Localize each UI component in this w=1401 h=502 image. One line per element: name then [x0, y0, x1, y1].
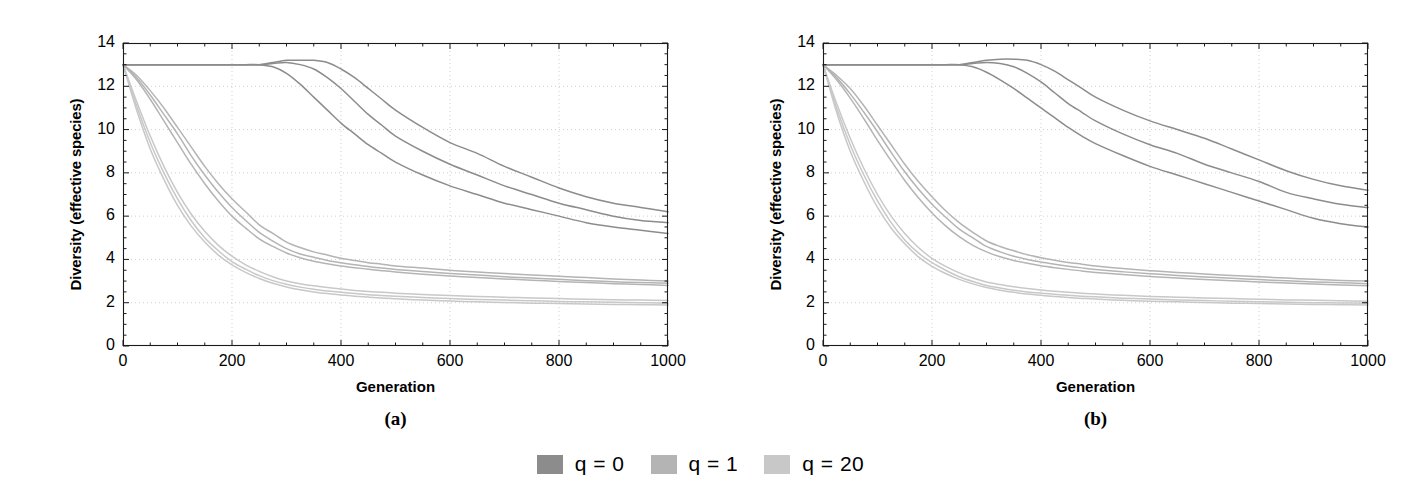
panel-a-ytick-12: 12 [81, 76, 115, 94]
panel-b-ytick-10: 10 [781, 120, 815, 138]
panel-b-xtick-800: 800 [1224, 352, 1294, 370]
panel-a-svg [123, 43, 668, 346]
panel-b-caption: (b) [1036, 408, 1156, 430]
panel-a-plot-area [123, 43, 668, 346]
panel-a-xtick-0: 0 [88, 352, 158, 370]
panel-b-xtick-400: 400 [1006, 352, 1076, 370]
legend-swatch-icon [764, 455, 790, 474]
panel-a-ytick-10: 10 [81, 120, 115, 138]
legend: q = 0q = 1q = 20 [0, 452, 1401, 476]
panel-b-ytick-14: 14 [781, 33, 815, 51]
panel-a-xtick-600: 600 [415, 352, 485, 370]
panel-b-ytick-12: 12 [781, 76, 815, 94]
panel-b-xlabel: Generation [823, 378, 1368, 395]
legend-label: q = 0 [575, 452, 625, 476]
panel-b-xtick-200: 200 [897, 352, 967, 370]
panel-a-ytick-6: 6 [81, 206, 115, 224]
panel-b-ytick-6: 6 [781, 206, 815, 224]
panel-b-svg [823, 43, 1368, 346]
panel-a-caption: (a) [336, 408, 456, 430]
panel-a-ytick-8: 8 [81, 163, 115, 181]
panel-b-xtick-0: 0 [788, 352, 858, 370]
panel-a-ytick-2: 2 [81, 293, 115, 311]
panel-b-plot-area [823, 43, 1368, 346]
panel-b-xtick-600: 600 [1115, 352, 1185, 370]
panel-a-xtick-1000: 1000 [633, 352, 703, 370]
legend-label: q = 20 [802, 452, 864, 476]
panel-a: Diversity (effective species) Generation… [0, 0, 700, 440]
legend-label: q = 1 [689, 452, 739, 476]
panel-a-xlabel: Generation [123, 378, 668, 395]
legend-swatch-icon [537, 455, 563, 474]
legend-entry-q1: q = 1 [651, 452, 739, 476]
plot-background [123, 43, 668, 346]
legend-entry-q0: q = 0 [537, 452, 625, 476]
panel-a-xtick-200: 200 [197, 352, 267, 370]
panel-a-xtick-400: 400 [306, 352, 376, 370]
legend-swatch-icon [651, 455, 677, 474]
panel-b-ytick-2: 2 [781, 293, 815, 311]
panel-b: Diversity (effective species) Generation… [700, 0, 1401, 440]
legend-entry-q20: q = 20 [764, 452, 864, 476]
panel-b-xtick-1000: 1000 [1333, 352, 1401, 370]
panel-b-ytick-4: 4 [781, 249, 815, 267]
panel-a-ytick-4: 4 [81, 249, 115, 267]
panel-b-ytick-8: 8 [781, 163, 815, 181]
panel-a-ytick-14: 14 [81, 33, 115, 51]
figure-container: Diversity (effective species) Generation… [0, 0, 1401, 502]
panel-a-xtick-800: 800 [524, 352, 594, 370]
